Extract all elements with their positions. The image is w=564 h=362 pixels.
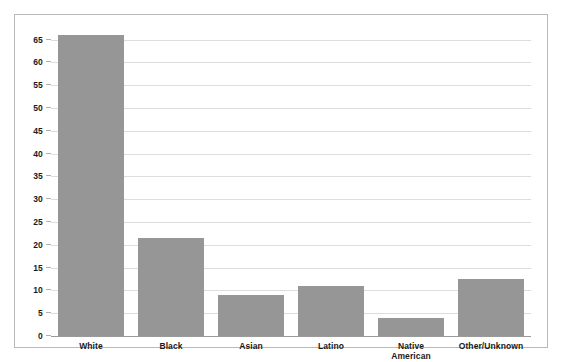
x-tick-label-line: Asian	[211, 341, 291, 351]
bar-slot	[451, 26, 531, 336]
x-tick-label: White	[51, 336, 131, 361]
x-tick-label-line: Native	[371, 341, 451, 351]
x-tick-label-line: Other/Unknown	[451, 341, 531, 351]
bar-slot	[211, 26, 291, 336]
bar[interactable]	[378, 318, 444, 336]
y-tick-label: 50	[33, 103, 43, 113]
y-tick-label: 35	[33, 171, 43, 181]
x-tick-label: Latino	[291, 336, 371, 361]
x-tick-label: Asian	[211, 336, 291, 361]
bar[interactable]	[138, 238, 204, 336]
x-axis-labels: WhiteBlackAsianLatinoNativeAmericanOther…	[51, 336, 531, 361]
y-tick-label: 10	[33, 285, 43, 295]
plot-area: 05101520253035404550556065	[51, 26, 531, 336]
bar-slot	[51, 26, 131, 336]
chart-frame: 05101520253035404550556065 WhiteBlackAsi…	[14, 14, 548, 348]
x-tick-label-line: American	[371, 351, 451, 361]
bar[interactable]	[298, 286, 364, 336]
bar[interactable]	[458, 279, 524, 336]
bar[interactable]	[58, 35, 124, 336]
y-tick-label: 5	[38, 308, 43, 318]
x-tick-label-line: White	[51, 341, 131, 351]
x-tick-label-line: Black	[131, 341, 211, 351]
y-tick-label: 60	[33, 57, 43, 67]
y-tick-label: 65	[33, 35, 43, 45]
y-tick-label: 0	[38, 331, 43, 341]
y-tick-label: 45	[33, 126, 43, 136]
y-tick-label: 20	[33, 240, 43, 250]
x-tick-label: NativeAmerican	[371, 336, 451, 361]
x-tick-label-line: Latino	[291, 341, 371, 351]
bar-slot	[131, 26, 211, 336]
y-tick-label: 55	[33, 80, 43, 90]
bar[interactable]	[218, 295, 284, 336]
x-tick-label: Black	[131, 336, 211, 361]
bar-slot	[371, 26, 451, 336]
y-tick-label: 25	[33, 217, 43, 227]
bar-series	[51, 26, 531, 336]
y-tick-label: 15	[33, 263, 43, 273]
bar-slot	[291, 26, 371, 336]
x-tick-label: Other/Unknown	[451, 336, 531, 361]
y-tick-label: 40	[33, 149, 43, 159]
y-tick-label: 30	[33, 194, 43, 204]
